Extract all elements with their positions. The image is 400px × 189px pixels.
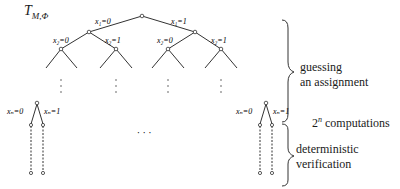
edge-label-x2-1: x₂=1 xyxy=(104,36,121,45)
leaf-label-xn-0: xₙ=0 xyxy=(6,107,23,116)
leaf-label-xn-1b: xₙ=1 xyxy=(272,107,289,116)
guessing-label: guessing an assignment xyxy=(300,60,368,90)
middle-ellipsis: · · · xyxy=(137,128,151,138)
edge-label-x2-1b: x₂=1 xyxy=(210,36,227,45)
edge-label-x2-0: x₂=0 xyxy=(52,36,69,45)
computations-label: 2n computations xyxy=(312,112,390,131)
leaf-label-xn-0b: xₙ=0 xyxy=(235,107,252,116)
edge-label-x1-1: x₁=1 xyxy=(170,17,187,26)
edge-label-x1-0: x₁=0 xyxy=(94,17,111,26)
verification-label: deterministic verification xyxy=(296,142,359,172)
edge-label-x2-0b: x₂=0 xyxy=(156,36,173,45)
leaf-label-xn-1: xₙ=1 xyxy=(43,107,60,116)
